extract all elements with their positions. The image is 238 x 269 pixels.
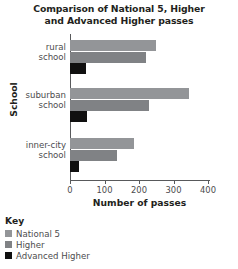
bar — [70, 150, 117, 161]
category-label: inner-cityschool — [0, 140, 66, 160]
x-axis-tick-mark — [208, 180, 209, 184]
category-label: ruralschool — [0, 42, 66, 62]
category-label-line: school — [0, 100, 66, 110]
legend-title: Key — [5, 215, 90, 226]
category-label: suburbanschool — [0, 90, 66, 110]
legend-swatch-icon — [5, 252, 12, 259]
legend-entry: Higher — [5, 239, 90, 250]
legend-entry-label: Advanced Higher — [16, 251, 90, 261]
category-label-line: suburban — [0, 90, 66, 100]
legend: Key National 5HigherAdvanced Higher — [5, 215, 90, 261]
category-label-line: inner-city — [0, 140, 66, 150]
bar — [70, 138, 134, 149]
legend-swatch-icon — [5, 241, 12, 248]
bar — [70, 100, 149, 111]
legend-entry-label: National 5 — [16, 229, 60, 239]
x-axis-tick-label: 100 — [88, 185, 122, 195]
x-axis-tick-label: 400 — [191, 185, 225, 195]
bar — [70, 111, 87, 122]
legend-entry-group: National 5HigherAdvanced Higher — [5, 228, 90, 261]
bar — [70, 40, 156, 51]
category-label-line: school — [0, 52, 66, 62]
category-label-line: school — [0, 150, 66, 160]
bar — [70, 63, 86, 74]
bar — [70, 88, 189, 99]
bar — [70, 161, 79, 172]
legend-entry-label: Higher — [16, 240, 45, 250]
legend-entry: National 5 — [5, 228, 90, 239]
x-axis-tick-mark — [70, 180, 71, 184]
legend-swatch-icon — [5, 230, 12, 237]
x-axis-tick-label: 300 — [157, 185, 191, 195]
x-axis-tick-label: 0 — [53, 185, 87, 195]
x-axis-title: Number of passes — [52, 197, 227, 208]
chart-title-line-2: and Advanced Higher passes — [0, 15, 238, 27]
chart-title: Comparison of National 5, Higher and Adv… — [0, 3, 238, 26]
plot-area — [70, 36, 208, 180]
x-axis-tick-mark — [174, 180, 175, 184]
legend-entry: Advanced Higher — [5, 250, 90, 261]
bar — [70, 52, 146, 63]
category-label-line: rural — [0, 42, 66, 52]
x-axis-tick-label: 200 — [122, 185, 156, 195]
chart-title-line-1: Comparison of National 5, Higher — [0, 3, 238, 15]
x-axis-tick-mark — [105, 180, 106, 184]
x-axis-tick-mark — [139, 180, 140, 184]
